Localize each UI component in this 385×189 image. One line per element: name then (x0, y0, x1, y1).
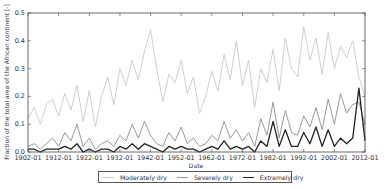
legend-swatch-severely-dry (177, 177, 188, 178)
x-tick-label: 1922-01 (76, 154, 103, 162)
x-tick-label: 2012-01 (351, 154, 378, 162)
legend-label: Extremely dry (260, 174, 304, 181)
drought-area-chart: 0.00.10.20.30.40.5 1902-011912-011922-01… (0, 0, 385, 189)
y-tick-label: 0.3 (15, 65, 25, 73)
y-axis-label: Fraction of the total area of the Africa… (3, 4, 10, 160)
x-tick-label: 2002-01 (321, 154, 348, 162)
y-tick-label: 0.2 (15, 92, 25, 100)
legend-swatch-moderately-dry (103, 177, 114, 178)
x-tick-label: 1992-01 (290, 154, 317, 162)
legend-item-extremely-dry: Extremely dry (243, 174, 304, 181)
chart-legend: Moderately dry Severely dry Extremely dr… (98, 171, 292, 183)
x-tick-label: 1942-01 (137, 154, 164, 162)
y-tick-label: 0.1 (15, 120, 25, 128)
legend-swatch-extremely-dry (243, 177, 254, 178)
y-tick-label: 0.5 (15, 9, 25, 17)
legend-label: Moderately dry (120, 174, 167, 181)
y-tick-label: 0.4 (15, 37, 25, 45)
x-tick-label: 1912-01 (45, 154, 72, 162)
x-tick-label: 1902-01 (14, 154, 41, 162)
x-tick-label: 1982-01 (260, 154, 287, 162)
legend-item-moderately-dry: Moderately dry (103, 174, 167, 181)
x-tick-label: 1962-01 (198, 154, 225, 162)
plot-area (28, 27, 365, 152)
x-tick-label: 1952-01 (168, 154, 195, 162)
x-axis-label: Date (189, 162, 204, 169)
x-tick-label: 1972-01 (229, 154, 256, 162)
legend-label: Severely dry (194, 174, 233, 181)
series-line-severely-dry (28, 94, 365, 150)
x-tick-label: 1932-01 (106, 154, 133, 162)
y-axis-ticks: 0.00.10.20.30.40.5 (15, 9, 365, 156)
legend-item-severely-dry: Severely dry (177, 174, 233, 181)
